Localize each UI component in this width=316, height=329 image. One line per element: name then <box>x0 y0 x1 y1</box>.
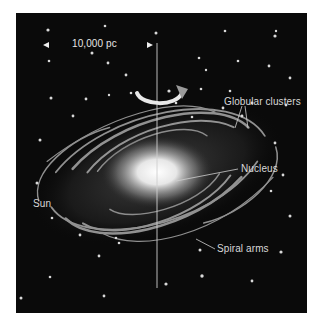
scale-bar-label: 10,000 pc <box>72 38 117 49</box>
nucleus-label: Nucleus <box>241 163 278 174</box>
sun-label: Sun <box>33 198 51 209</box>
scale-arrow-left-icon <box>43 42 49 48</box>
scale-arrow-right-icon <box>147 42 153 48</box>
galaxy-diagram: 10,000 pc Globular clusters Nucleus Sun … <box>16 13 307 313</box>
rotation-arrow-icon <box>137 85 188 103</box>
spiral-arms-label: Spiral arms <box>217 243 269 254</box>
globular-clusters-label: Globular clusters <box>224 96 301 107</box>
